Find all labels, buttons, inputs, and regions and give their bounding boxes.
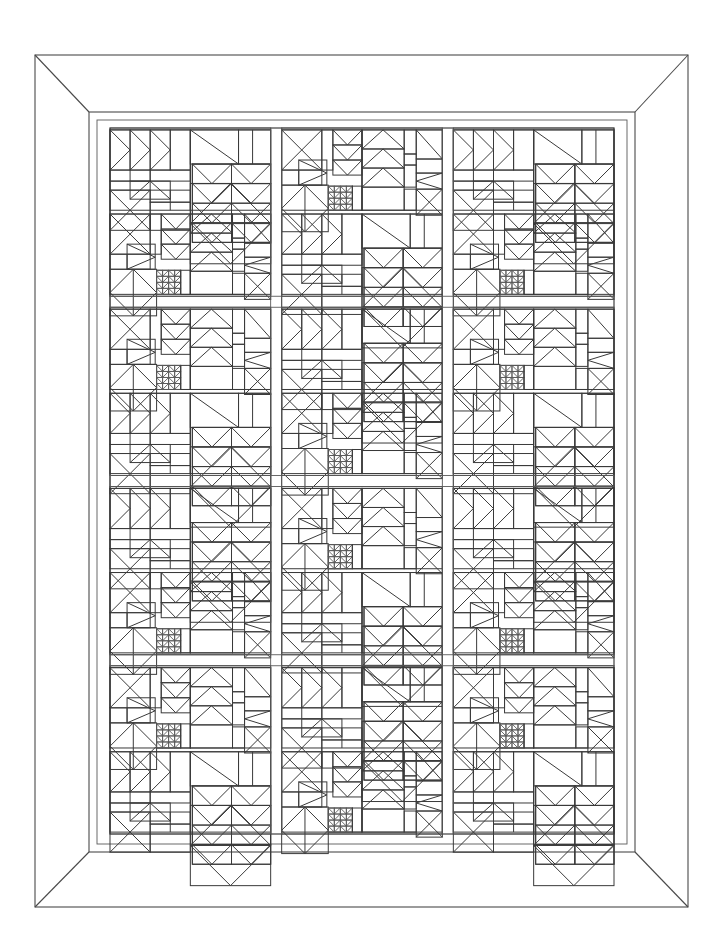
quilt-illustration [0,0,722,943]
quilt-drawing-canvas [0,0,722,943]
